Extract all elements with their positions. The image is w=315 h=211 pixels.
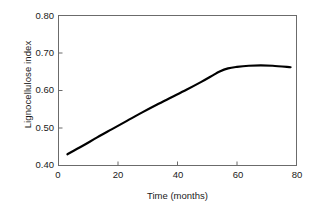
plot-frame (59, 16, 297, 166)
data-line (67, 65, 290, 154)
x-tick-label: 60 (218, 169, 258, 180)
data-series-group (67, 65, 290, 154)
axes-frame (59, 16, 297, 166)
x-axis-title: Time (months) (58, 190, 297, 201)
x-tick-label: 0 (38, 169, 78, 180)
chart-figure: Lignocellulose index 0.80 0.70 0.60 0.50… (0, 0, 315, 211)
x-tick-label: 40 (158, 169, 198, 180)
x-tick-label: 20 (98, 169, 138, 180)
y-tick-label: 0.80 (20, 11, 54, 21)
y-tick-label: 0.70 (20, 48, 54, 58)
y-tick-label: 0.50 (20, 123, 54, 133)
y-tick-label: 0.60 (20, 85, 54, 95)
x-tick-label: 80 (277, 169, 315, 180)
